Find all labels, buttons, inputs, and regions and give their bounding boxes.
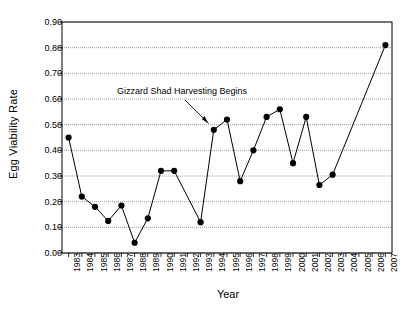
- x-tick-label: 1987: [125, 253, 135, 272]
- x-tick-label: 1999: [283, 253, 293, 272]
- x-tick-label: 1988: [138, 253, 148, 272]
- x-axis-title: Year: [177, 288, 239, 300]
- data-point: [92, 204, 98, 210]
- x-tick-label: 1986: [112, 253, 122, 272]
- x-tick-label: 1991: [178, 253, 188, 272]
- data-point: [66, 134, 72, 140]
- data-point: [330, 172, 336, 178]
- data-point: [237, 178, 243, 184]
- data-point: [198, 219, 204, 225]
- x-axis-tick-labels: 1983198419851986198719881989199019911992…: [0, 253, 416, 293]
- egg-viability-chart: Egg Viability Rate 0.000.100.200.300.400…: [0, 0, 416, 311]
- x-tick-label: 2001: [310, 253, 320, 272]
- x-tick-label: 1992: [191, 253, 201, 272]
- x-tick-label: 1984: [85, 253, 95, 272]
- data-point: [224, 116, 230, 122]
- x-tick-label: 1996: [244, 253, 254, 272]
- annotation-label: Gizzard Shad Harvesting Begins: [117, 86, 247, 96]
- data-point: [79, 193, 85, 199]
- x-tick-label: 1990: [165, 253, 175, 272]
- x-tick-label: 2004: [349, 253, 359, 272]
- x-tick-label: 1989: [151, 253, 161, 272]
- annotation-arrowhead: [202, 116, 209, 124]
- data-point: [145, 215, 151, 221]
- x-tick-label: 2005: [363, 253, 373, 272]
- x-tick-label: 1993: [204, 253, 214, 272]
- data-point: [303, 114, 309, 120]
- data-point: [105, 218, 111, 224]
- x-tick-label: 1997: [257, 253, 267, 272]
- data-point: [316, 182, 322, 188]
- data-point: [118, 202, 124, 208]
- data-point: [290, 160, 296, 166]
- plot-frame: [62, 22, 392, 253]
- x-tick-label: 2000: [297, 253, 307, 272]
- data-point: [132, 240, 138, 246]
- x-tick-label: 2006: [376, 253, 386, 272]
- x-tick-label: 2007: [389, 253, 399, 272]
- data-point: [382, 42, 388, 48]
- x-tick-label: 1995: [231, 253, 241, 272]
- data-point: [211, 127, 217, 133]
- data-line: [69, 45, 386, 243]
- x-tick-label: 1998: [270, 253, 280, 272]
- x-axis-title-container: Year: [0, 288, 416, 300]
- x-tick-label: 1983: [72, 253, 82, 272]
- x-tick-label: 2003: [336, 253, 346, 272]
- data-point: [171, 168, 177, 174]
- data-point: [250, 147, 256, 153]
- x-tick-label: 1985: [99, 253, 109, 272]
- x-tick-label: 2002: [323, 253, 333, 272]
- data-point: [158, 168, 164, 174]
- data-point: [264, 114, 270, 120]
- x-tick-label: 1994: [217, 253, 227, 272]
- data-point: [277, 106, 283, 112]
